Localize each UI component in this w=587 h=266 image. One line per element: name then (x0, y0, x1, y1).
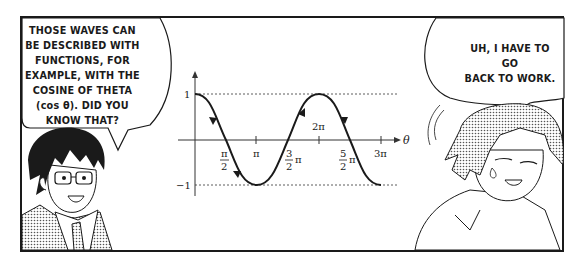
speech-line: EXAMPLE, WITH THE (18, 68, 147, 83)
y-axis-arrow-icon (192, 71, 198, 78)
x-label-3half-num: 3 (286, 148, 292, 159)
left-speech-bubble-text: THOSE WAVES CAN BE DESCRIBED WITH FUNCTI… (18, 23, 147, 128)
x-label-3half-pi: π (295, 154, 302, 165)
speech-line: COSINE OF THETA (18, 83, 147, 98)
cosine-graph: 1 −1 π 2 π 3 2 π 2π 5 2 π 3π θ (176, 71, 410, 196)
x-label-5half-num: 5 (340, 148, 346, 159)
x-label-3half-den: 2 (286, 161, 292, 172)
x-label-2pi: 2π (312, 121, 325, 132)
x-label-pi-half-den: 2 (221, 161, 227, 172)
speech-line: THOSE WAVES CAN (18, 23, 147, 38)
x-label-pi: π (253, 148, 260, 159)
speech-line: BE DESCRIBED WITH (18, 38, 147, 53)
speech-line: KNOW THAT? (18, 113, 147, 128)
y-label-minus1: −1 (176, 180, 191, 191)
x-label-3pi: 3π (374, 148, 387, 159)
x-label-5half-den: 2 (340, 161, 346, 172)
x-axis-arrow-icon (394, 137, 401, 143)
right-speech-bubble-text: UH, I HAVE TO GO BACK TO WORK. (464, 41, 556, 86)
x-label-5half-pi: π (349, 154, 356, 165)
speech-line: (cos θ). DID YOU (18, 98, 147, 113)
x-label-pi-half-num: π (221, 148, 228, 159)
direction-arrow-icon (233, 171, 241, 178)
direction-arrow-icon (209, 117, 217, 125)
speech-line: FUNCTIONS, FOR (18, 53, 147, 68)
y-label-1: 1 (184, 89, 190, 100)
x-axis-label-theta: θ (403, 134, 410, 147)
left-character-man-glasses (22, 128, 112, 250)
speech-line: BACK TO WORK. (464, 71, 556, 86)
speech-line: UH, I HAVE TO GO (464, 41, 556, 71)
right-character-woman (415, 104, 563, 250)
